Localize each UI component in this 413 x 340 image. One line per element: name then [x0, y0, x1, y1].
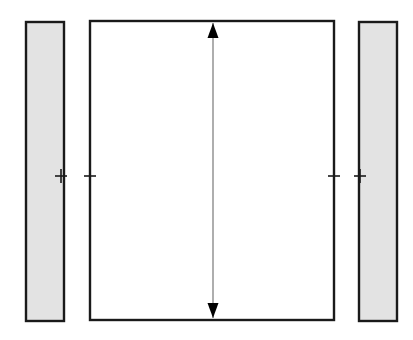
diagram-canvas	[0, 0, 413, 340]
right-side-bar	[359, 22, 397, 321]
left-side-bar	[26, 22, 64, 321]
diagram-svg	[0, 0, 413, 340]
center-panel	[90, 21, 334, 320]
